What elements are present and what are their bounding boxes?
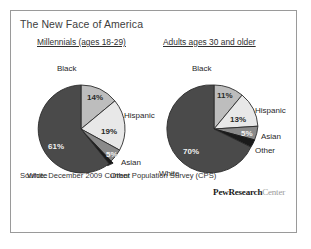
source-note: Source: December 2009 Current Population… bbox=[20, 171, 216, 180]
value-hispanic: 19% bbox=[101, 127, 117, 136]
pew-research-center-logo: PewResearchCenter bbox=[213, 187, 285, 197]
chart-heading-millennials: Millennials (ages 18-29) bbox=[37, 37, 126, 47]
value-black: 11% bbox=[217, 91, 233, 100]
value-asian: 5% bbox=[106, 150, 118, 159]
infographic-panel: The New Face of America Millennials (age… bbox=[10, 10, 297, 233]
logo-pewresearch: PewResearch bbox=[213, 187, 262, 197]
value-black: 14% bbox=[87, 93, 103, 102]
label-hispanic: Hispanic bbox=[255, 106, 286, 115]
label-black: Black bbox=[57, 64, 77, 73]
page-title: The New Face of America bbox=[20, 18, 143, 30]
logo-center: Center bbox=[262, 187, 285, 197]
label-black: Black bbox=[192, 64, 212, 73]
value-white: 61% bbox=[48, 142, 64, 151]
label-asian: Asian bbox=[261, 132, 281, 141]
chart-heading-adults: Adults ages 30 and older bbox=[163, 37, 256, 47]
label-other: Other bbox=[255, 146, 275, 155]
value-hispanic: 13% bbox=[230, 115, 246, 124]
value-white: 70% bbox=[183, 147, 199, 156]
value-asian: 5% bbox=[241, 129, 253, 138]
label-asian: Asian bbox=[121, 158, 141, 167]
